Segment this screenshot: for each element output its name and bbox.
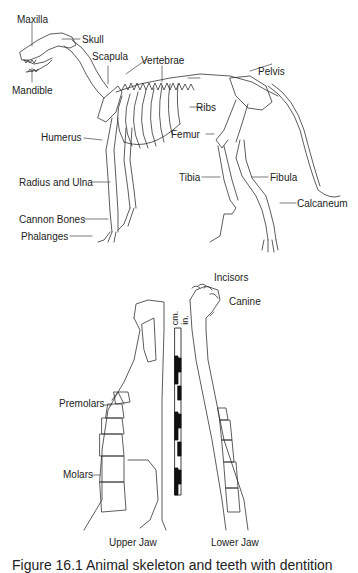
label-femur: Femur [171, 129, 200, 141]
label-mandible: Mandible [12, 85, 53, 97]
label-fibula: Fibula [270, 172, 297, 184]
label-tibia: Tibia [179, 172, 200, 184]
label-premolars: Premolars [59, 398, 105, 410]
label-humerus: Humerus [41, 132, 82, 144]
label-upper-jaw: Upper Jaw [109, 537, 157, 549]
label-lower-jaw: Lower Jaw [211, 537, 259, 549]
label-vertebrae: Vertebrae [141, 55, 184, 67]
label-ribs: Ribs [196, 102, 216, 114]
figure-caption: Figure 16.1 Animal skeleton and teeth wi… [12, 557, 333, 573]
label-radius-ulna: Radius and Ulna [19, 177, 93, 189]
label-calcaneum: Calcaneum [297, 198, 348, 210]
label-skull: Skull [82, 34, 104, 46]
label-scale-in: in. [179, 315, 191, 325]
label-canine: Canine [229, 296, 261, 308]
label-incisors: Incisors [214, 272, 248, 284]
label-cannon-bones: Cannon Bones [19, 214, 85, 226]
label-pelvis: Pelvis [258, 66, 285, 78]
label-molars: Molars [63, 469, 93, 481]
label-maxilla: Maxilla [17, 14, 48, 26]
label-phalanges: Phalanges [21, 231, 68, 243]
label-scapula: Scapula [92, 51, 128, 63]
